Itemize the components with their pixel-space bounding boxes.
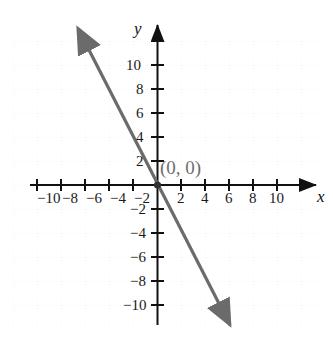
x-tick-label-9: 10 [269,191,284,206]
x-tick-label-3: −4 [110,191,126,206]
y-tick-label-9: −10 [123,298,146,313]
y-tick-label-4: 2 [136,154,144,169]
x-tick-label-2: −6 [86,191,102,206]
x-tick-label-1: −8 [62,191,78,206]
y-tick-label-2: 6 [136,106,144,121]
y-tick-label-0: 10 [126,58,141,73]
origin-point-marker [154,181,161,188]
x-tick-label-8: 8 [249,191,257,206]
y-tick-label-7: −6 [130,250,146,265]
y-tick-label-5: −2 [130,202,146,217]
x-tick-label-6: 4 [201,191,209,206]
graph-figure: x y (0, 0) −10−8−6−4−2246810 108642−2−4−… [0,0,333,339]
x-axis-label: x [317,188,325,205]
y-tick-label-6: −4 [130,226,146,241]
y-tick-label-8: −8 [130,274,146,289]
origin-point-label: (0, 0) [160,158,201,177]
x-tick-label-0: −10 [37,191,60,206]
grid-background [13,37,321,327]
y-tick-label-3: 4 [136,130,144,145]
x-tick-label-7: 6 [225,191,233,206]
y-tick-label-1: 8 [136,82,144,97]
y-axis-label: y [134,20,142,37]
x-tick-label-5: 2 [177,191,185,206]
